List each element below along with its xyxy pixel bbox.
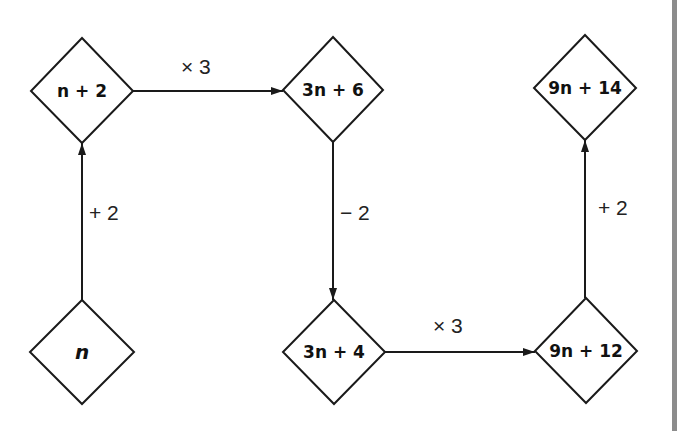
- node-9n-plus-14: 9n + 14: [534, 35, 636, 140]
- node-label: 3n + 6: [302, 80, 364, 100]
- node-label: 9n + 12: [549, 341, 623, 361]
- node-label: n: [75, 340, 89, 364]
- node-3n-plus-4: 3n + 4: [283, 300, 385, 404]
- edge-label-minus-2: − 2: [340, 201, 370, 224]
- node-3n-plus-6: 3n + 6: [283, 37, 383, 142]
- page-edge-bar: [672, 0, 677, 431]
- node-label: 3n + 4: [303, 342, 365, 362]
- node-label: 9n + 14: [548, 78, 622, 98]
- flow-diagram: + 2 × 3 − 2 × 3 + 2 n n + 2 3n + 6 3n + …: [0, 0, 685, 431]
- node-n: n: [30, 300, 134, 404]
- node-n-plus-2: n + 2: [31, 38, 133, 143]
- node-label: n + 2: [57, 81, 107, 101]
- node-9n-plus-12: 9n + 12: [535, 298, 637, 403]
- edge-label-plus-2-right: + 2: [598, 196, 628, 219]
- edge-label-plus-2-left: + 2: [89, 201, 119, 224]
- edge-label-times-3-top: × 3: [181, 55, 211, 78]
- edge-label-times-3-bottom: × 3: [433, 314, 463, 337]
